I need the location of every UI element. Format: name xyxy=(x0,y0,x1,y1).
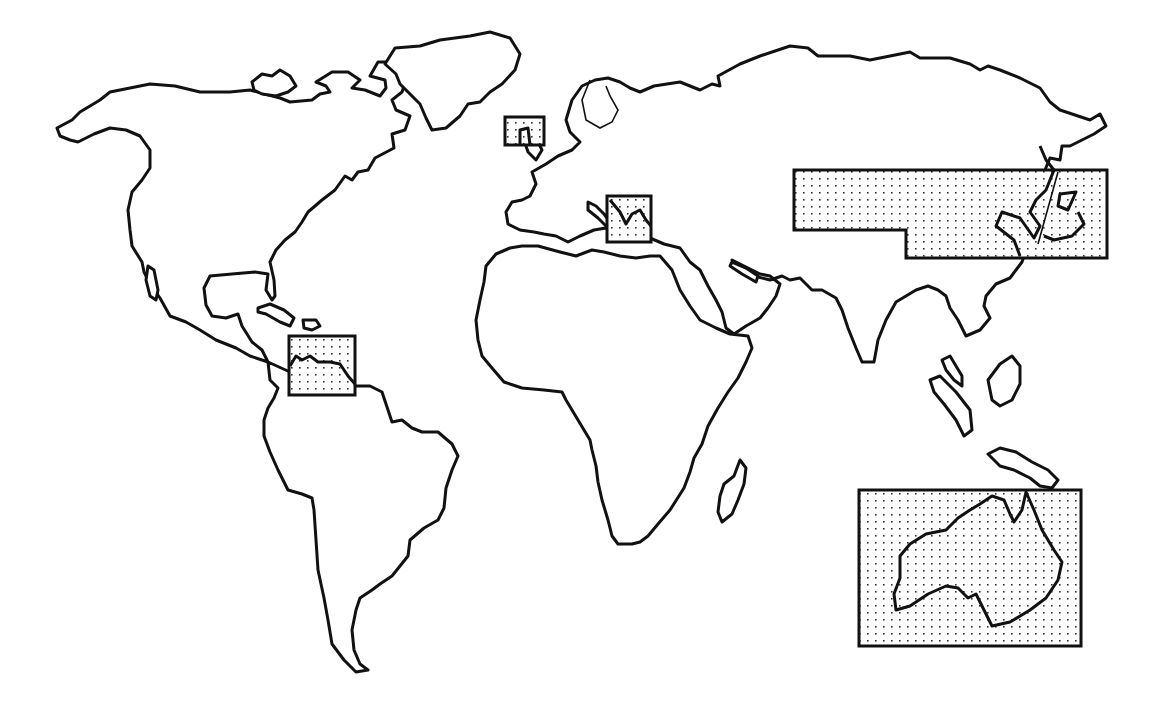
cuba xyxy=(258,304,294,326)
madagascar xyxy=(718,460,746,522)
south-america xyxy=(264,362,458,672)
arctic-island xyxy=(252,70,296,96)
north-america xyxy=(57,62,410,362)
highlight-caribbean-venezuela xyxy=(289,336,355,395)
sumatra xyxy=(930,376,972,436)
highlight-australia xyxy=(859,490,1081,646)
highlight-eastern-mediterranean xyxy=(607,196,651,242)
hispaniola xyxy=(303,320,320,330)
highlight-british-isles xyxy=(505,117,544,145)
new-guinea xyxy=(988,448,1058,488)
world-map xyxy=(0,0,1166,707)
borneo xyxy=(988,356,1020,406)
